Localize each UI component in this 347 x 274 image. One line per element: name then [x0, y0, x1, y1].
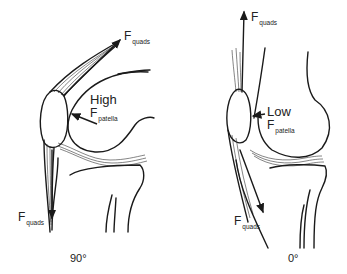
right-top-fquads-label: Fquads — [251, 11, 277, 23]
force-symbol: F — [267, 118, 274, 132]
left-patella-magnitude-label: High — [90, 93, 117, 106]
right-bottom-fquads-label: Fquads — [234, 215, 260, 227]
left-fpatella-label: Fpatella — [90, 107, 118, 119]
right-angle-label: 0° — [288, 253, 299, 264]
left-bottom-fquads-label: Fquads — [18, 211, 44, 223]
force-symbol: F — [251, 10, 258, 24]
force-subscript: quads — [242, 223, 260, 230]
force-subscript: patella — [275, 127, 294, 134]
knee-diagram-drawing — [0, 0, 347, 274]
force-subscript: quads — [132, 38, 150, 45]
patella-0 — [227, 89, 251, 142]
force-symbol: F — [234, 214, 241, 228]
right-fpatella-label: Fpatella — [267, 119, 295, 131]
force-subscript: quads — [26, 219, 44, 226]
force-subscript: quads — [259, 19, 277, 26]
force-symbol: F — [124, 29, 131, 43]
force-symbol: F — [90, 106, 97, 120]
patella-90 — [40, 90, 67, 147]
knee-90-drawing — [40, 40, 154, 232]
right-patella-magnitude-label: Low — [267, 105, 291, 118]
tibia-0 — [270, 165, 326, 248]
left-angle-label: 90° — [70, 253, 87, 264]
force-symbol: F — [18, 210, 25, 224]
left-top-fquads-label: Fquads — [124, 30, 150, 42]
force-subscript: patella — [98, 115, 117, 122]
